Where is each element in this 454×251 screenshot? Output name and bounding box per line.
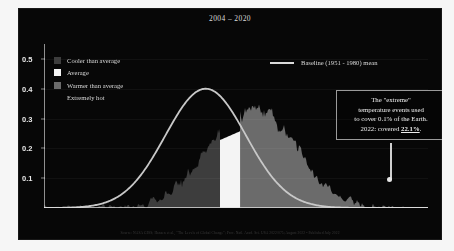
legend-item-warmer-than-average[interactable]: Warmer than average [54,79,204,92]
y-tick-label: 0.4 [22,84,32,93]
annotation-leader-line [390,143,392,180]
y-tick-label: 0.3 [22,114,32,123]
annotation-line-2: temperature events used [340,105,442,115]
annotation-line-4-prefix: 2022: covered [361,125,401,132]
legend-item-average[interactable]: Average [54,67,204,80]
annotation-line-1: The "extreme" [340,95,442,105]
y-tick-label: 0.2 [22,144,32,153]
y-tick-mark [41,88,45,89]
source-footnote: Source: NASA GISS; Hansen et al., "The L… [18,231,442,235]
y-tick-mark [41,58,45,59]
y-axis-line [44,44,45,208]
chart-title: 2004 – 2020 [18,14,442,23]
annotation-line-4: 2022: covered 22.1%. [340,124,442,134]
baseline-line-swatch [270,62,294,64]
legend-item-extremely-hot[interactable]: Extremely hot [54,92,204,105]
legend-item-cooler-than-average[interactable]: Cooler than average [54,54,204,67]
annotation-callout: The "extreme" temperature events used to… [336,90,442,140]
annotation-target-dot [387,177,392,182]
legend-label-baseline: Baseline (1951 - 1980) mean [301,59,378,66]
legend-swatch-warmer [54,82,61,89]
y-tick-label: 0.1 [22,174,32,183]
chart-slide: 2004 – 2020 0.50.40.30.20.1 Cooler than … [18,8,442,240]
annotation-line-4-suffix: . [420,125,422,132]
legend: Cooler than average Average Warmer than … [54,54,204,104]
y-tick-label: 0.5 [22,54,32,63]
legend-label-cooler: Cooler than average [67,57,120,64]
gridline [44,148,428,149]
legend-swatch-average [54,69,61,76]
legend-item-baseline[interactable]: Baseline (1951 - 1980) mean [270,59,378,66]
y-tick-mark [41,178,45,179]
annotation-line-4-value: 22.1% [401,125,420,132]
legend-swatch-cooler [54,57,61,64]
legend-label-warmer: Warmer than average [67,82,123,89]
y-tick-mark [41,118,45,119]
gridline [44,178,428,179]
screenshot-root: 2004 – 2020 0.50.40.30.20.1 Cooler than … [0,0,454,251]
annotation-line-3: to cover 0.1% of the Earth. [340,114,442,124]
legend-label-extremely-hot: Extremely hot [67,94,105,101]
y-tick-mark [41,148,45,149]
legend-label-average: Average [67,69,89,76]
x-axis-baseline [44,207,428,208]
legend-swatch-extremely-hot [54,94,61,101]
